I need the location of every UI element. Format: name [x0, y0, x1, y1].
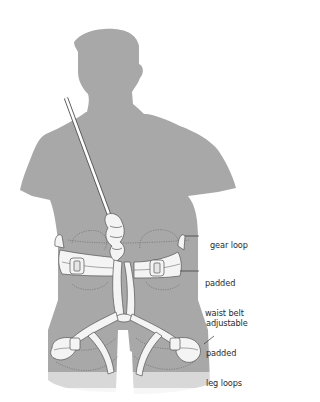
label-leg-loops-line2: padded [206, 348, 248, 358]
label-gear-loop-text: gear loop [210, 240, 248, 250]
label-leg-loops-line3: leg loops [206, 378, 248, 388]
label-gear-loop: gear loop [205, 230, 248, 250]
leg-buckle-right [170, 338, 180, 350]
leg-buckle-left [70, 338, 80, 350]
label-waist-belt-line1: padded [205, 278, 244, 288]
head-silhouette [74, 29, 146, 116]
label-leg-loops-line1: adjustable [206, 318, 248, 328]
label-adjustable-leg-loops: adjustable padded leg loops [206, 298, 248, 398]
leg-gap [116, 351, 134, 402]
